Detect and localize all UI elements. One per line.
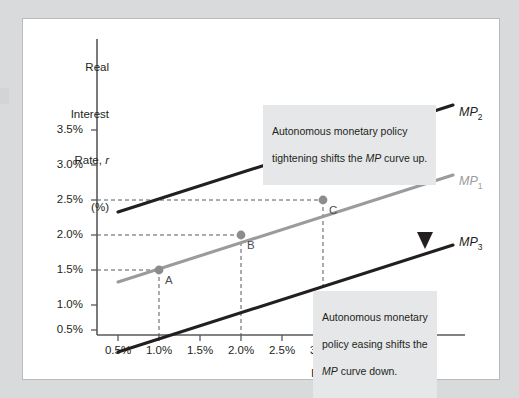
point-label-b: B bbox=[247, 239, 255, 251]
curve-label-mp3: MP3 bbox=[459, 235, 482, 252]
y-axis-title-line-1: Real bbox=[31, 60, 109, 76]
annotation-easing-line-1: Autonomous monetary bbox=[322, 311, 428, 325]
annotation-easing-line-3: MP curve down. bbox=[322, 365, 428, 379]
y-axis-title-line-2: Interest bbox=[31, 107, 109, 123]
y-tick-label-3-5: 3.5% bbox=[39, 123, 83, 135]
annotation-easing-line-2: policy easing shifts the bbox=[322, 338, 428, 352]
y-tick-label-3-0: 3.0% bbox=[39, 158, 83, 170]
y-tick-label-2-5: 2.5% bbox=[39, 193, 83, 205]
point-label-a: A bbox=[165, 274, 173, 286]
data-point-c bbox=[319, 196, 328, 205]
chart-panel: Real Interest Rate, r (%) 3.5% 3.0% 2.5%… bbox=[22, 18, 500, 380]
curve-label-mp2: MP2 bbox=[459, 105, 482, 122]
annotation-tightening-line-2: tightening shifts the MP curve up. bbox=[272, 152, 427, 166]
y-tick-label-1-5: 1.5% bbox=[39, 263, 83, 275]
page-edge-artifact bbox=[0, 88, 9, 104]
shift-arrow-down bbox=[417, 192, 433, 249]
data-point-a bbox=[155, 266, 164, 275]
y-axis-title: Real Interest Rate, r (%) bbox=[31, 29, 109, 246]
annotation-easing: Autonomous monetary policy easing shifts… bbox=[313, 291, 437, 398]
y-tick-label-1-0: 1.0% bbox=[39, 298, 83, 310]
y-axis-variable: r bbox=[105, 154, 109, 166]
y-tick-label-0-5: 0.5% bbox=[39, 323, 83, 335]
guide-lines-vertical bbox=[159, 200, 323, 335]
annotation-tightening: Autonomous monetary policy tightening sh… bbox=[263, 105, 436, 185]
annotation-tightening-line-1: Autonomous monetary policy bbox=[272, 125, 427, 139]
data-point-b bbox=[237, 231, 246, 240]
guide-lines-horizontal bbox=[97, 200, 323, 270]
curve-mp1 bbox=[118, 175, 453, 282]
point-label-c: C bbox=[329, 204, 337, 216]
curve-label-mp1: MP1 bbox=[459, 174, 482, 191]
y-tick-label-2-0: 2.0% bbox=[39, 228, 83, 240]
